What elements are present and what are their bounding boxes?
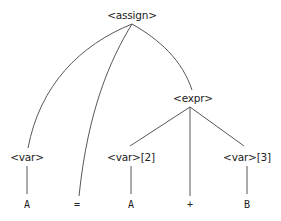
leaf-A-2: A [128,199,134,210]
parse-tree-diagram: <assign> <expr> <var> <var>[2] <var>[3] … [0,0,281,221]
edge-assign-expr [132,24,192,90]
edge-assign-var [28,24,132,148]
edge-expr-var3 [190,107,244,146]
leaf-equals: = [74,199,80,210]
leaf-B: B [244,199,250,210]
leaf-plus: + [187,199,193,210]
edge-expr-var2 [130,107,190,146]
node-var: <var> [10,151,44,163]
node-expr: <expr> [173,92,213,104]
tree-edges [0,0,281,221]
node-var-3: <var>[3] [223,151,271,163]
leaf-A-1: A [24,199,30,210]
node-var-2: <var>[2] [107,151,155,163]
node-assign: <assign> [107,9,157,21]
